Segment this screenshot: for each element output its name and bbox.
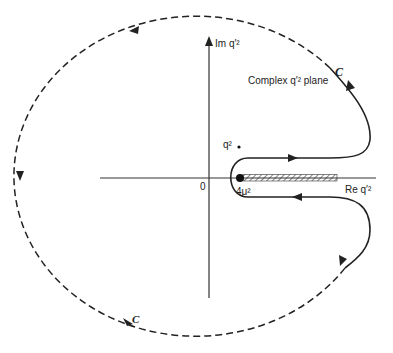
branch-point-dot xyxy=(236,174,244,182)
arrow-icon xyxy=(292,193,302,201)
branch-point-label: 4μ² xyxy=(236,186,251,197)
arrow-icon xyxy=(339,255,347,266)
real-axis-label: Re q′² xyxy=(345,184,372,195)
plane-label: Complex q′² plane xyxy=(248,75,329,86)
imaginary-axis-label: Im q′² xyxy=(215,38,240,49)
contour-label-bottom: C xyxy=(132,313,140,325)
arrow-icon xyxy=(288,154,298,162)
contour-label-top: C xyxy=(335,65,344,79)
contour-diagram: Im q′² Complex q′² plane Re q′² 0 4μ² q²… xyxy=(0,0,393,353)
pole-dot xyxy=(237,145,240,148)
origin-label: 0 xyxy=(200,181,206,192)
keyhole-contour xyxy=(231,68,370,268)
branch-cut xyxy=(243,175,337,182)
axis-arrow-icon xyxy=(205,36,213,46)
arrow-icon xyxy=(16,171,24,181)
pole-label: q² xyxy=(223,139,233,150)
arrow-icon xyxy=(346,80,355,91)
